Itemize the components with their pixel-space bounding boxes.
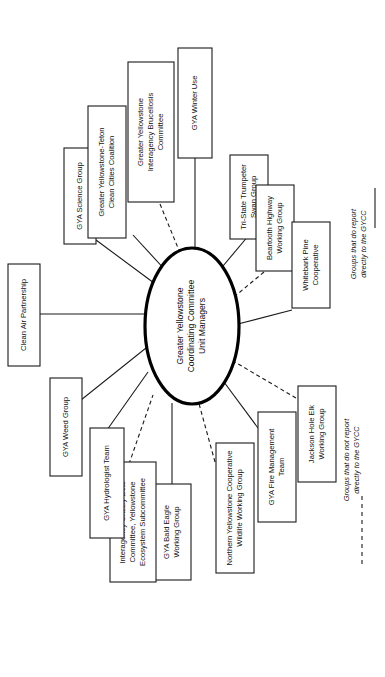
node-label-gya-fire-line-1: GYA Fire Management <box>267 428 276 506</box>
node-label-group-gya-science-group: GYA Science Group <box>75 162 84 229</box>
node-label-group-clean-air-partnership: Clean Air Partnership <box>19 279 28 351</box>
legend-label-group-not-reports: Groups that do not report directly to th… <box>342 418 361 502</box>
node-label-group-beartooth-highway-working-group: Beartooth Highway Working Group <box>265 196 284 260</box>
node-label-group-jackson-hole-elk-working-group: Jackson Hole Elk Working Group <box>307 405 326 463</box>
node-label-gya-science-group-line-1: GYA Science Group <box>75 162 84 229</box>
node-label-gy-brucellosis-line-1: Greater Yellowstone <box>136 98 145 166</box>
node-label-group-gya-bald-eagle-working-group: GYA Bald Eagle Working Group <box>162 505 181 559</box>
node-label-beartooth-line-1: Beartooth Highway <box>265 196 274 260</box>
node-gya-weed-group[interactable]: GYA Weed Group <box>50 378 82 476</box>
node-gya-winter-use[interactable]: GYA Winter Use <box>178 48 212 158</box>
legend-label-reports-line-2: directly to the GYCC <box>359 210 368 278</box>
legend-label-group-reports: Groups that do report directly to the GY… <box>349 208 368 279</box>
node-label-jackson-hole-line-2: Working Group <box>317 409 326 460</box>
node-label-bald-eagle-line-1: GYA Bald Eagle <box>162 505 171 559</box>
node-clean-air-partnership[interactable]: Clean Air Partnership <box>8 264 40 366</box>
node-label-clean-air-partnership-line-1: Clean Air Partnership <box>19 279 28 351</box>
legend-label-reports-line-1: Groups that do report <box>349 208 358 279</box>
node-label-beartooth-line-2: Working Group <box>275 203 284 254</box>
node-label-group-gya-hydrologist-team: GYA Hydrologist Team <box>102 445 111 521</box>
node-gya-bald-eagle-working-group[interactable]: GYA Bald Eagle Working Group <box>153 484 191 580</box>
node-label-gy-brucellosis-line-3: Committee <box>156 114 165 151</box>
node-label-gya-fire-line-2: Team <box>277 458 286 477</box>
node-label-jackson-hole-line-1: Jackson Hole Elk <box>307 405 316 463</box>
node-label-gya-winter-use-line-1: GYA Winter Use <box>190 76 199 131</box>
node-label-group-gya-winter-use: GYA Winter Use <box>190 76 199 131</box>
gycc-organizational-diagram: Greater Yellowstone Coordinating Committ… <box>0 0 385 677</box>
node-label-whitebark-line-2: Cooperative <box>311 245 320 286</box>
node-label-grizzly-line-2: Committee, Yellowstone <box>128 481 137 562</box>
diagram-canvas: Greater Yellowstone Coordinating Committ… <box>0 0 385 677</box>
node-label-northern-yellowstone-line-2: Wildlife Working Group <box>235 469 244 547</box>
center-label-line-2: Coordinating Committee <box>186 279 196 372</box>
node-gyt-clean-cities-coalition[interactable]: Greater Yellowstone-Teton Clean Cities C… <box>88 106 126 238</box>
node-label-northern-yellowstone-line-1: Northern Yellowstone Cooperative <box>225 451 234 566</box>
node-label-group-gyt-clean-cities-coalition: Greater Yellowstone-Teton Clean Cities C… <box>97 127 116 216</box>
node-gy-interagency-brucellosis-committee[interactable]: Greater Yellowstone Interagency Brucello… <box>128 62 174 202</box>
node-label-group-gya-weed-group: GYA Weed Group <box>61 397 70 457</box>
node-label-bald-eagle-line-2: Working Group <box>172 507 181 558</box>
node-label-whitebark-line-1: Whitebark Pine <box>301 239 310 291</box>
node-beartooth-highway-working-group[interactable]: Beartooth Highway Working Group <box>256 185 294 271</box>
node-label-tri-state-swan-line-1: Tri-State Trumpeter <box>239 164 248 230</box>
center-node-gycc-unit-managers[interactable]: Greater Yellowstone Coordinating Committ… <box>145 248 239 404</box>
node-northern-yellowstone-coop-wildlife-wg[interactable]: Northern Yellowstone Cooperative Wildlif… <box>216 443 254 573</box>
center-label-line-1: Greater Yellowstone <box>175 287 185 364</box>
node-label-grizzly-line-3: Ecosystem Subcommittee <box>138 478 147 566</box>
node-label-gya-weed-group-line-1: GYA Weed Group <box>61 397 70 457</box>
node-label-gy-brucellosis-line-2: Interagency Brucellosis <box>146 93 155 172</box>
node-label-gya-hydrologist-team-line-1: GYA Hydrologist Team <box>102 445 111 521</box>
node-gya-fire-management-team[interactable]: GYA Fire Management Team <box>258 412 296 522</box>
center-label-line-3: Unit Managers <box>197 298 207 354</box>
node-jackson-hole-elk-working-group[interactable]: Jackson Hole Elk Working Group <box>298 386 336 482</box>
node-label-group-whitebark-pine-cooperative: Whitebark Pine Cooperative <box>301 239 320 291</box>
legend-label-not-reports-line-2: directly to the GYCC <box>352 426 361 494</box>
node-whitebark-pine-cooperative[interactable]: Whitebark Pine Cooperative <box>292 222 330 308</box>
legend-label-not-reports-line-1: Groups that do not report <box>342 418 351 502</box>
node-label-gyt-clean-cities-coalition-line-1: Greater Yellowstone-Teton <box>97 127 106 216</box>
node-label-gyt-clean-cities-coalition-line-2: Clean Cities Coalition <box>107 136 116 209</box>
node-gya-hydrologist-team[interactable]: GYA Hydrologist Team <box>90 428 124 538</box>
